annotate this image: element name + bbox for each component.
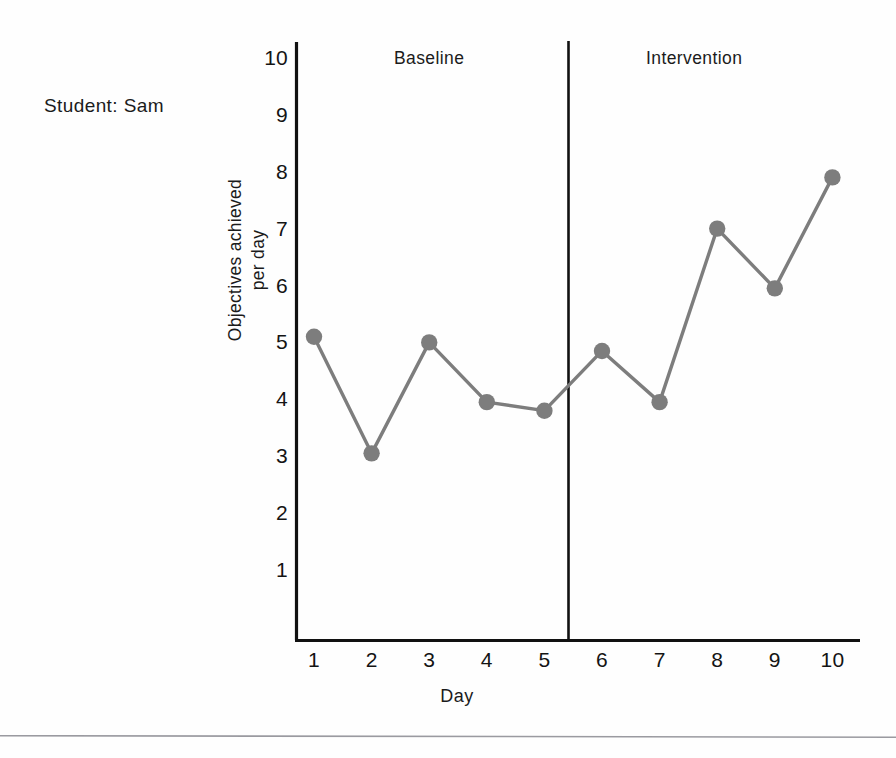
data-point-day-5: [536, 402, 552, 418]
x-tick-label-1: 1: [294, 648, 334, 672]
x-tick-label-10: 10: [812, 648, 852, 672]
x-tick-label-2: 2: [352, 648, 392, 672]
page-bottom-rule: [0, 735, 896, 738]
x-tick-label-6: 6: [582, 648, 622, 672]
x-tick-label-8: 8: [697, 648, 737, 672]
data-point-day-9: [767, 280, 783, 296]
y-tick-label-1: 1: [244, 558, 288, 582]
data-point-day-4: [479, 394, 495, 410]
x-tick-label-3: 3: [409, 648, 449, 672]
data-point-day-2: [363, 445, 379, 461]
y-axis-title: Objectives achieved per day: [224, 145, 284, 375]
data-point-day-1: [306, 329, 322, 345]
chart-canvas: [0, 0, 896, 758]
y-tick-label-3: 3: [244, 444, 288, 468]
x-tick-label-5: 5: [524, 648, 564, 672]
phase-label-intervention: Intervention: [646, 48, 742, 69]
y-tick-label-2: 2: [244, 501, 288, 525]
data-point-day-6: [594, 343, 610, 359]
x-tick-label-7: 7: [640, 648, 680, 672]
phase-label-baseline: Baseline: [394, 48, 464, 69]
data-series-line: [314, 177, 832, 453]
data-point-day-8: [709, 220, 725, 236]
x-tick-label-9: 9: [755, 648, 795, 672]
data-point-day-10: [824, 169, 840, 185]
data-point-markers: [306, 169, 841, 461]
y-tick-label-4: 4: [244, 387, 288, 411]
x-tick-label-4: 4: [467, 648, 507, 672]
y-axis-title-line1: Objectives achieved: [225, 179, 245, 341]
y-tick-label-10: 10: [244, 46, 288, 70]
data-point-day-3: [421, 334, 437, 350]
x-axis-title-wrap: Day: [0, 686, 896, 707]
x-axis-title: Day: [440, 686, 474, 707]
figure-page: Student: Sam 12345678910 12345678910 Obj…: [0, 0, 896, 758]
y-axis-title-line2: per day: [248, 230, 268, 290]
data-point-day-7: [651, 394, 667, 410]
y-tick-label-9: 9: [244, 103, 288, 127]
